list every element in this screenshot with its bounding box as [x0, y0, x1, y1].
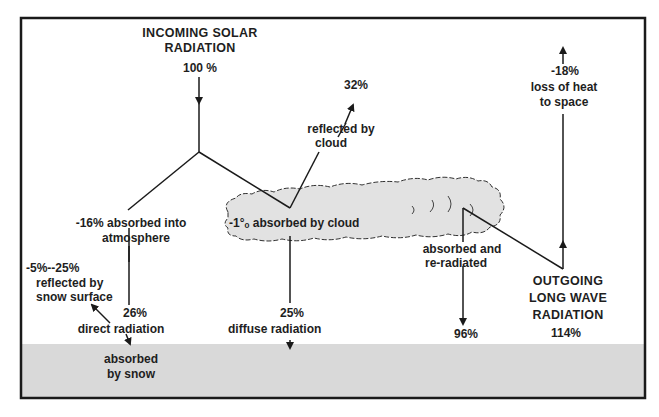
- snow-reflect-value: -5%--25%: [26, 261, 96, 275]
- diffuse-value: 25%: [272, 306, 312, 320]
- snow-reflection-arrow: [92, 305, 110, 323]
- reflected-cloud-line2: cloud: [296, 136, 366, 150]
- snow-reflect-line1: reflected by: [36, 276, 116, 290]
- absorbed-atmosphere-line2: atmosphere: [96, 231, 176, 245]
- outgoing-line1: OUTGOING: [518, 274, 618, 288]
- snow-energy-balance-diagram: INCOMING SOLAR RADIATION 100 % 32% refle…: [0, 0, 659, 417]
- absorbed-snow-line2: by snow: [96, 367, 166, 381]
- cloud-absorbed-label: -1°ₒ absorbed by cloud: [229, 216, 369, 230]
- absorbed-atmosphere-line1: -16% absorbed into: [66, 216, 196, 230]
- reradiated-line1: absorbed and: [414, 242, 510, 256]
- incoming-value: 100 %: [170, 61, 230, 75]
- outgoing-value: 114%: [538, 326, 594, 340]
- outgoing-line2: LONG WAVE: [518, 291, 618, 305]
- absorbed-snow-line1: absorbed: [96, 352, 166, 366]
- reflected-cloud-line1: reflected by: [296, 122, 386, 136]
- reflected-cloud-value: 32%: [336, 78, 376, 92]
- direct-label: direct radiation: [66, 322, 176, 336]
- diffuse-label: diffuse radiation: [228, 322, 348, 336]
- incoming-title-line1: INCOMING SOLAR: [136, 26, 264, 40]
- loss-line1: loss of heat: [514, 80, 614, 94]
- direct-value: 26%: [115, 306, 155, 320]
- cloud-shape: [225, 177, 504, 241]
- reradiated-line2: re-radiated: [414, 256, 498, 270]
- outgoing-line3: RADIATION: [518, 308, 618, 322]
- reradiated-value: 96%: [446, 327, 486, 341]
- loss-line2: to space: [514, 95, 614, 109]
- incoming-title-line2: RADIATION: [136, 41, 264, 55]
- branch-left: [128, 152, 199, 210]
- snow-reflect-line2: snow surface: [36, 290, 126, 304]
- loss-value: -18%: [540, 64, 590, 78]
